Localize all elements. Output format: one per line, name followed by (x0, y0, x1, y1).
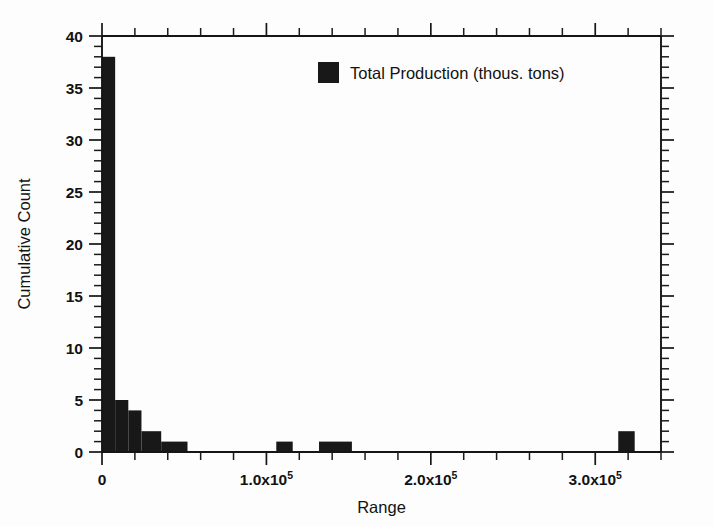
y-axis-title: Cumulative Count (15, 178, 33, 310)
histogram-bar (128, 410, 141, 452)
y-axis-tick-label: 5 (74, 392, 83, 409)
y-axis-tick-label: 35 (66, 80, 84, 97)
histogram-bar (618, 431, 634, 452)
x-axis-tick-label: 3.0x105 (569, 469, 622, 488)
y-axis-tick-label: 10 (66, 340, 83, 357)
histogram-bar (102, 57, 115, 452)
histogram-bar (276, 442, 292, 452)
x-axis-tick-label: 2.0x105 (404, 469, 457, 488)
histogram-bar (141, 431, 161, 452)
legend-color-swatch (318, 62, 339, 83)
y-axis-tick-label: 20 (66, 236, 83, 253)
y-axis-tick-label: 30 (66, 132, 83, 149)
histogram-chart: 051015202530354001.0x1052.0x1053.0x105Ra… (0, 0, 714, 527)
x-axis-title: Range (357, 498, 406, 516)
y-axis-tick-label: 25 (66, 184, 84, 201)
y-axis-tick-label: 0 (74, 444, 83, 461)
x-axis-tick-label: 1.0x105 (240, 469, 293, 488)
x-axis-tick-label: 0 (98, 471, 107, 488)
histogram-bar (161, 442, 187, 452)
histogram-bar (115, 400, 128, 452)
chart-page: 051015202530354001.0x1052.0x1053.0x105Ra… (0, 0, 714, 527)
legend-label: Total Production (thous. tons) (350, 64, 565, 82)
y-axis-tick-label: 15 (66, 288, 84, 305)
histogram-bar (319, 442, 352, 452)
y-axis-tick-label: 40 (66, 28, 83, 45)
